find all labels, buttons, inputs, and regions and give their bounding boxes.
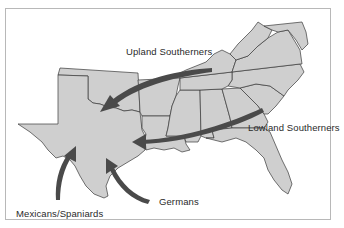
arrow-mexicans-spaniards: [56, 154, 72, 200]
label-mexicans-spaniards: Mexicans/Spaniards: [16, 208, 103, 219]
label-germans: Germans: [159, 196, 199, 207]
migration-map: [0, 0, 344, 228]
label-lowland-southerners: Lowland Southerners: [248, 122, 340, 133]
state-florida: [206, 128, 292, 194]
arrow-germans: [110, 168, 150, 204]
label-upland-southerners: Upland Southerners: [126, 46, 212, 57]
